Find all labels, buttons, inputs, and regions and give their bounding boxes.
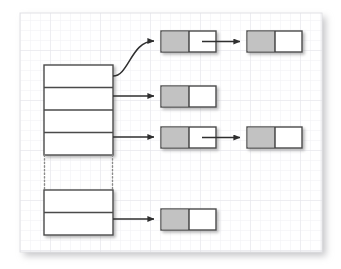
bucket-row-4[interactable] bbox=[44, 133, 113, 156]
chain-4-node-2-data-cell bbox=[248, 128, 275, 148]
bucket-row-1[interactable] bbox=[44, 65, 113, 88]
upper-bucket-rows bbox=[44, 65, 113, 155]
bucket-row-n2[interactable] bbox=[44, 213, 113, 236]
hash-table-chaining-diagram bbox=[0, 0, 341, 269]
chain-2-node-1-data-cell bbox=[162, 87, 189, 107]
chain-n2-node-1-data-cell bbox=[162, 210, 189, 230]
chain-4-node-1-data-cell bbox=[162, 128, 189, 148]
chain-2-node-1[interactable] bbox=[161, 86, 216, 107]
diagram-root bbox=[0, 0, 341, 269]
chain-n2-node-1[interactable] bbox=[161, 209, 216, 230]
bucket-row-n1[interactable] bbox=[44, 190, 113, 213]
chain-1-node-2[interactable] bbox=[247, 31, 302, 52]
chain-1-node-1-data-cell bbox=[162, 32, 189, 52]
chain-4-node-2[interactable] bbox=[247, 127, 302, 148]
lower-bucket-rows bbox=[44, 190, 113, 235]
bucket-row-3[interactable] bbox=[44, 110, 113, 133]
bucket-row-2[interactable] bbox=[44, 88, 113, 111]
chain-1-node-2-data-cell bbox=[248, 32, 275, 52]
